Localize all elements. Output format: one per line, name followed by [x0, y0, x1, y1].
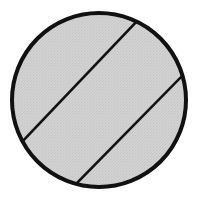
circle-diagram [0, 0, 205, 199]
figure-root [0, 0, 205, 199]
